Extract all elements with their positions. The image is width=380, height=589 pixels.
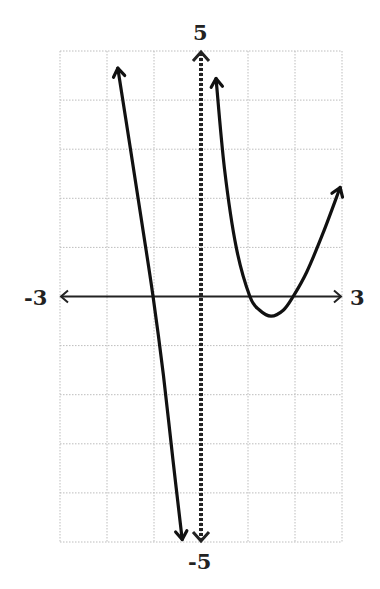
curves — [114, 68, 343, 539]
right-branch-curve — [216, 78, 340, 316]
x-min-label: -3 — [24, 287, 47, 308]
y-min-label: -5 — [188, 551, 211, 572]
axes — [61, 52, 341, 541]
y-max-label: 5 — [193, 22, 208, 43]
left-branch-curve — [118, 68, 182, 539]
x-max-label: 3 — [350, 287, 365, 308]
function-graph — [0, 0, 380, 589]
